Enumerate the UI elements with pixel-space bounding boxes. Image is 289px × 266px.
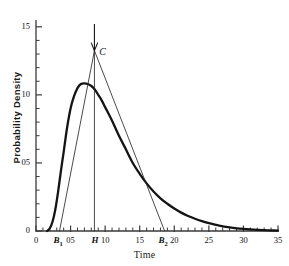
figure-container: Probability Density Time 0051015 0051015…	[0, 0, 289, 266]
x-tick-label: 0	[25, 235, 47, 245]
series-0	[47, 83, 278, 231]
left-base-label: B1	[54, 235, 63, 247]
x-tick-label: 15	[129, 235, 151, 245]
axes-group	[36, 20, 278, 232]
data-series-group	[47, 48, 278, 231]
y-tick-label: 0	[8, 225, 30, 235]
x-tick-label: 35	[267, 235, 289, 245]
y-tick-label: 15	[8, 21, 30, 31]
x-tick-label: 30	[232, 235, 254, 245]
x-tick-label: 25	[198, 235, 220, 245]
chart-plot-area	[0, 0, 289, 266]
mode-label: H	[91, 235, 98, 245]
apex-label-c: C	[99, 46, 106, 57]
x-axis-title: Time	[0, 249, 289, 260]
right-base-label: B2	[159, 235, 168, 247]
y-tick-label: 05	[8, 157, 30, 167]
annotations-group	[91, 24, 97, 51]
y-tick-label: 10	[8, 89, 30, 99]
x-tick-label: 05	[60, 235, 82, 245]
series-1	[60, 51, 165, 231]
